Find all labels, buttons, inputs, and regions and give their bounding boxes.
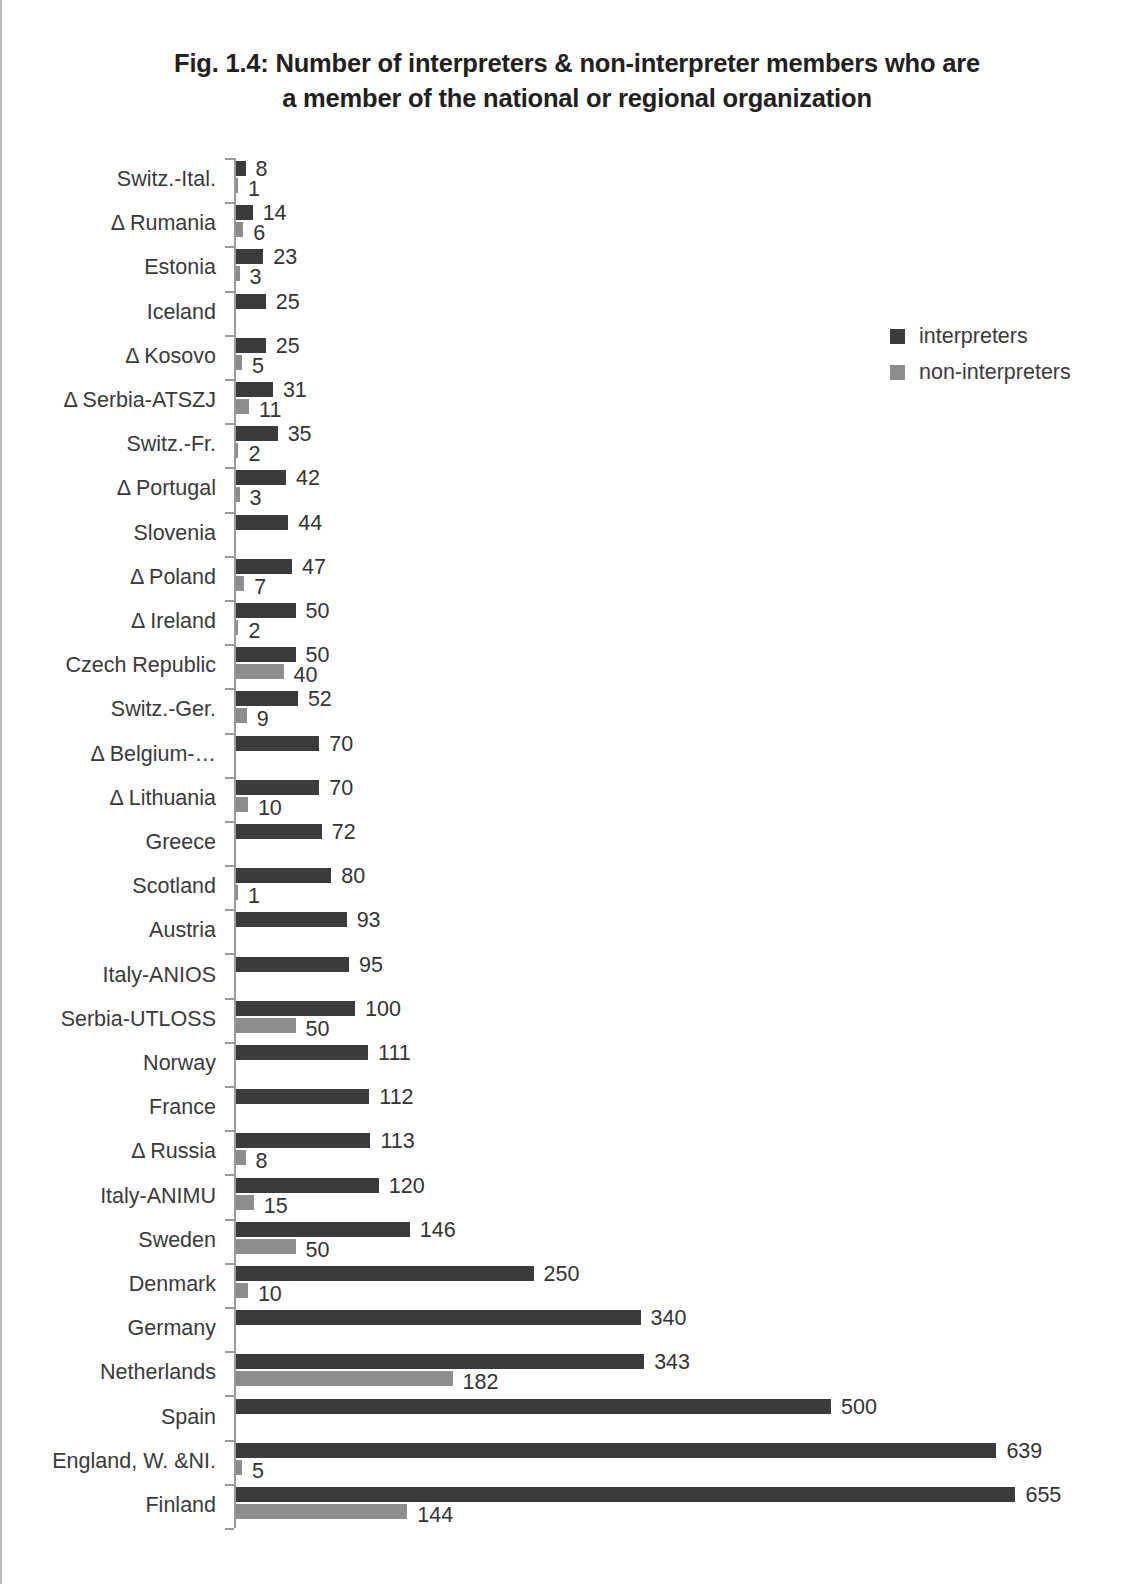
- bar-interpreters: [236, 1222, 410, 1237]
- bar-interpreters: [236, 338, 266, 353]
- value-label-interpreters: 25: [276, 336, 300, 358]
- bar-row: Slovenia44: [2, 512, 1140, 556]
- category-label: Czech Republic: [2, 653, 216, 678]
- category-label: Greece: [2, 830, 216, 855]
- bar-interpreters: [236, 736, 319, 751]
- bar-row: Estonia233: [2, 246, 1140, 290]
- category-label: Δ Ireland: [2, 609, 216, 634]
- category-label: England, W. &NI.: [2, 1449, 216, 1474]
- bar-non-interpreters: [236, 620, 238, 635]
- category-label: Italy-ANIMU: [2, 1184, 216, 1209]
- value-label-non-interpreters: 144: [417, 1505, 453, 1527]
- value-label-non-interpreters: 5: [252, 1461, 264, 1483]
- value-label-interpreters: 50: [306, 601, 330, 623]
- category-label: France: [2, 1095, 216, 1120]
- legend-item-interpreters: interpreters: [890, 318, 1071, 354]
- category-label: Switz.-Ital.: [2, 167, 216, 192]
- bar-interpreters: [236, 1487, 1015, 1502]
- bar-row: France112: [2, 1086, 1140, 1130]
- value-label-interpreters: 35: [288, 424, 312, 446]
- category-label: Netherlands: [2, 1360, 216, 1385]
- value-label-interpreters: 113: [380, 1131, 414, 1153]
- value-label-interpreters: 100: [365, 999, 401, 1021]
- value-label-interpreters: 500: [841, 1397, 877, 1419]
- bar-interpreters: [236, 1045, 368, 1060]
- legend-item-non-interpreters: non-interpreters: [890, 354, 1071, 390]
- value-label-interpreters: 120: [389, 1176, 425, 1198]
- value-label-interpreters: 111: [378, 1043, 411, 1065]
- bar-non-interpreters: [236, 1195, 254, 1210]
- bar-non-interpreters: [236, 664, 284, 679]
- value-label-interpreters: 31: [283, 380, 307, 402]
- value-label-interpreters: 250: [544, 1264, 580, 1286]
- chart-legend: interpreters non-interpreters: [890, 318, 1071, 390]
- bar-interpreters: [236, 1310, 641, 1325]
- bar-interpreters: [236, 559, 292, 574]
- bar-row: Δ Rumania146: [2, 202, 1140, 246]
- bar-interpreters: [236, 1443, 996, 1458]
- value-label-interpreters: 146: [420, 1220, 456, 1242]
- bar-interpreters: [236, 868, 331, 883]
- bar-row: Δ Belgium-…70: [2, 733, 1140, 777]
- category-label: Δ Portugal: [2, 476, 216, 501]
- bar-non-interpreters: [236, 443, 238, 458]
- bar-interpreters: [236, 470, 286, 485]
- bar-row: Italy-ANIOS95: [2, 953, 1140, 997]
- bar-row: Δ Portugal423: [2, 467, 1140, 511]
- bar-non-interpreters: [236, 885, 238, 900]
- bar-row: Switz.-Ital.81: [2, 158, 1140, 202]
- bar-row: Δ Russia1138: [2, 1130, 1140, 1174]
- bar-non-interpreters: [236, 576, 244, 591]
- value-label-interpreters: 72: [332, 822, 356, 844]
- value-label-interpreters: 25: [276, 292, 300, 314]
- bar-non-interpreters: [236, 222, 243, 237]
- category-label: Δ Poland: [2, 565, 216, 590]
- bar-row: Sweden14650: [2, 1219, 1140, 1263]
- bar-non-interpreters: [236, 1239, 296, 1254]
- category-label: Germany: [2, 1316, 216, 1341]
- bar-interpreters: [236, 957, 349, 972]
- value-label-non-interpreters: 7: [254, 577, 266, 599]
- bar-non-interpreters: [236, 399, 249, 414]
- bar-interpreters: [236, 426, 278, 441]
- value-label-non-interpreters: 15: [264, 1196, 288, 1218]
- chart-title-line-2: a member of the national or regional org…: [282, 84, 872, 112]
- bar-row: Czech Republic5040: [2, 644, 1140, 688]
- bar-non-interpreters: [236, 1504, 407, 1519]
- bar-interpreters: [236, 515, 288, 530]
- value-label-non-interpreters: 40: [294, 665, 318, 687]
- bar-row: Δ Lithuania7010: [2, 777, 1140, 821]
- bar-non-interpreters: [236, 355, 242, 370]
- bar-row: Switz.-Fr.352: [2, 423, 1140, 467]
- value-label-interpreters: 23: [273, 247, 297, 269]
- bar-interpreters: [236, 1089, 369, 1104]
- bar-interpreters: [236, 1133, 370, 1148]
- bar-non-interpreters: [236, 178, 238, 193]
- category-label: Δ Serbia-ATSZJ: [2, 388, 216, 413]
- value-label-non-interpreters: 1: [248, 886, 260, 908]
- bar-row: Denmark25010: [2, 1263, 1140, 1307]
- value-label-interpreters: 44: [298, 513, 322, 535]
- bar-row: Finland655144: [2, 1484, 1140, 1528]
- bar-interpreters: [236, 1399, 831, 1414]
- bar-row: Netherlands343182: [2, 1351, 1140, 1395]
- bar-row: Serbia-UTLOSS10050: [2, 998, 1140, 1042]
- bar-row: Norway111: [2, 1042, 1140, 1086]
- value-label-interpreters: 47: [302, 557, 326, 579]
- bar-interpreters: [236, 647, 296, 662]
- bar-interpreters: [236, 824, 322, 839]
- bar-interpreters: [236, 691, 298, 706]
- value-label-non-interpreters: 11: [259, 400, 281, 422]
- value-label-non-interpreters: 5: [252, 356, 264, 378]
- category-label: Austria: [2, 918, 216, 943]
- bar-row: Italy-ANIMU12015: [2, 1174, 1140, 1218]
- bar-interpreters: [236, 294, 266, 309]
- value-label-interpreters: 80: [341, 866, 365, 888]
- bar-row: Spain500: [2, 1395, 1140, 1439]
- category-label: Δ Kosovo: [2, 344, 216, 369]
- category-label: Sweden: [2, 1228, 216, 1253]
- bar-interpreters: [236, 161, 246, 176]
- bar-row: Switz.-Ger.529: [2, 688, 1140, 732]
- value-label-interpreters: 70: [329, 778, 353, 800]
- bar-row: Germany340: [2, 1307, 1140, 1351]
